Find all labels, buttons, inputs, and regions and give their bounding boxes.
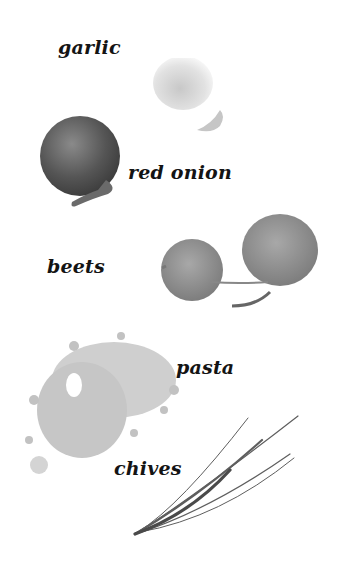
chives-illustration <box>130 410 310 540</box>
label-beets: beets <box>47 255 105 277</box>
beets-illustration <box>160 210 330 310</box>
label-red-onion: red onion <box>128 161 232 183</box>
label-pasta: pasta <box>176 356 234 378</box>
garlic-bulb-illustration <box>150 58 240 138</box>
label-garlic: garlic <box>58 36 121 58</box>
red-onion-illustration <box>36 110 126 210</box>
